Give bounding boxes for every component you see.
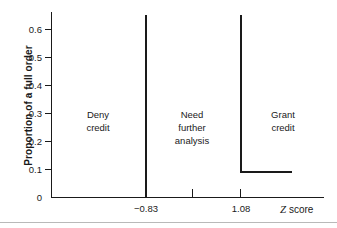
step-drop-grant-boundary [240,15,242,173]
region-label-line-1: Deny [86,108,109,121]
step-plateau-0.1 [240,171,292,173]
region-label-line-1: Grant [271,108,295,121]
x-tick-mark-midpoint [192,189,193,197]
region-label-line-2: credit [86,121,109,134]
y-tick-label-text: 0.1 [6,165,42,175]
y-tick-label-text: 0.4 [6,81,42,91]
region-label-line-1: Need [175,108,209,121]
chart-figure: Proportion of a full order 0.6 0.5 0.4 0… [0,0,337,228]
step-riser-deny-boundary [145,15,147,198]
region-label-line-2: credit [271,121,295,134]
region-label-need-further-analysis: Need further analysis [175,108,209,147]
y-tick-label-text: 0.5 [6,53,42,63]
x-axis-title: Z score [280,204,313,215]
x-tick-label-1.08: 1.08 [232,203,251,214]
y-tick-label-text: 0.2 [6,137,42,147]
y-axis-title: Proportion of a full order [23,26,34,186]
x-tick-label--0.83: −0.83 [134,203,158,214]
y-axis-line [51,12,52,198]
region-label-line-2: further [175,121,209,134]
x-tick-mark-1.08 [240,189,241,197]
y-tick-label-text: 0 [6,193,42,203]
x-axis-line [51,197,324,198]
y-tick-label-text: 0.3 [6,109,42,119]
x-axis-title-suffix: score [286,204,313,215]
region-label-deny-credit: Deny credit [86,108,109,134]
bottom-divider [0,222,337,223]
region-label-line-3: analysis [175,134,209,147]
region-label-grant-credit: Grant credit [271,108,295,134]
y-tick-label-text: 0.6 [6,25,42,35]
